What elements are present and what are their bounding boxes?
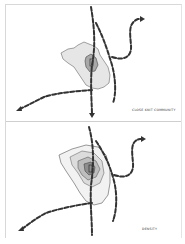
caption-close-knit-community: Close knit community bbox=[132, 108, 176, 112]
caption-density: Density bbox=[142, 227, 157, 231]
diagram-density: Density bbox=[6, 125, 181, 237]
sketch-page: Close knit community Density bbox=[5, 4, 182, 238]
density-sketch bbox=[6, 125, 181, 237]
close-knit-community-sketch bbox=[6, 5, 181, 119]
panel-divider bbox=[6, 121, 181, 122]
diagram-close-knit-community: Close knit community bbox=[6, 5, 181, 119]
